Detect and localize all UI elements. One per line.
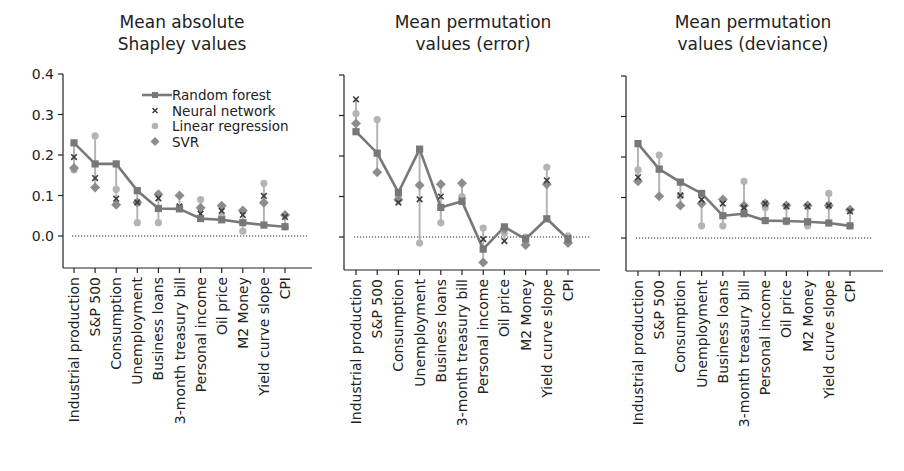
svr-marker xyxy=(845,205,855,215)
random-forest-marker xyxy=(176,205,183,212)
legend-label: Linear regression xyxy=(172,118,289,134)
x-tick-label: CPI xyxy=(277,277,293,299)
legend-label: SVR xyxy=(172,134,199,150)
random-forest-marker xyxy=(543,215,550,222)
x-tick-label: Yield curve slope xyxy=(821,280,837,400)
svr-marker xyxy=(654,191,664,201)
linear-regression-marker xyxy=(374,116,381,123)
random-forest-marker xyxy=(70,139,77,146)
x-tick-label: Oil price xyxy=(496,279,512,337)
legend: Random forestNeural networkLinear regres… xyxy=(142,87,289,150)
random-forest-marker xyxy=(501,223,508,230)
svr-marker xyxy=(351,119,361,129)
panel-title: Shapley values xyxy=(118,34,247,54)
legend-item: Random forest xyxy=(142,87,271,103)
random-forest-marker xyxy=(783,217,790,224)
y-tick-label: 0.3 xyxy=(32,107,54,123)
chart-panel-2: Mean permutationvalues (error)Industrial… xyxy=(339,12,600,426)
svr-marker xyxy=(259,198,269,208)
random-forest-marker xyxy=(416,146,423,153)
y-tick-label: 0.4 xyxy=(32,66,54,82)
svr-marker xyxy=(90,182,100,192)
svr-marker xyxy=(675,201,685,211)
x-tick-label: 3-month treasury bill xyxy=(736,280,752,427)
random-forest-marker xyxy=(437,204,444,211)
svr-marker xyxy=(478,258,488,268)
random-forest-marker xyxy=(634,140,641,147)
neural-network-legend-icon xyxy=(153,108,158,113)
chart-canvas: Mean absoluteShapley values0.00.10.20.30… xyxy=(0,0,904,471)
legend-item: Linear regression xyxy=(152,118,289,134)
random-forest-marker xyxy=(458,198,465,205)
random-forest-marker xyxy=(374,150,381,157)
figure: Mean absoluteShapley values0.00.10.20.30… xyxy=(0,0,904,471)
x-tick-label: M2 Money xyxy=(235,277,251,349)
x-tick-label: Oil price xyxy=(778,280,794,338)
legend-label: Random forest xyxy=(172,87,271,103)
x-tick-label: Business loans xyxy=(715,280,731,383)
legend-item: SVR xyxy=(151,134,200,150)
x-tick-label: Personal income xyxy=(193,277,209,392)
x-tick-label: S&P 500 xyxy=(369,279,385,338)
y-tick-label: 0.0 xyxy=(32,228,54,244)
x-tick-label: Business loans xyxy=(433,279,449,382)
x-tick-label: S&P 500 xyxy=(87,277,103,336)
x-tick-label: Personal income xyxy=(757,280,773,395)
random-forest-marker xyxy=(762,217,769,224)
x-tick-label: Consumption xyxy=(108,277,124,370)
x-tick-label: Unemployment xyxy=(694,280,710,388)
linear-regression-marker xyxy=(719,222,726,229)
random-forest-marker xyxy=(677,179,684,186)
x-tick-label: M2 Money xyxy=(800,280,816,352)
x-tick-label: Consumption xyxy=(390,279,406,372)
linear-regression-marker xyxy=(480,224,487,231)
linear-regression-marker xyxy=(92,132,99,139)
random-forest-marker xyxy=(260,221,267,228)
y-tick-label: 0.2 xyxy=(32,147,54,163)
svr-marker xyxy=(217,201,227,211)
random-forest-marker xyxy=(698,190,705,197)
random-forest-marker xyxy=(92,160,99,167)
random-forest-marker xyxy=(155,205,162,212)
linear-regression-legend-icon xyxy=(152,123,159,130)
random-forest-marker xyxy=(719,212,726,219)
x-tick-label: M2 Money xyxy=(518,279,534,351)
linear-regression-marker xyxy=(740,178,747,185)
x-tick-label: 3-month treasury bill xyxy=(172,277,188,424)
random-forest-marker xyxy=(197,215,204,222)
svr-legend-icon xyxy=(151,137,160,146)
random-forest-marker xyxy=(846,222,853,229)
x-tick-label: 3-month treasury bill xyxy=(454,279,470,426)
linear-regression-marker xyxy=(437,219,444,226)
random-forest-marker xyxy=(395,189,402,196)
x-tick-label: Yield curve slope xyxy=(539,279,555,399)
svr-marker xyxy=(196,203,206,213)
random-forest-marker xyxy=(352,128,359,135)
svr-marker xyxy=(415,180,425,190)
linear-regression-marker xyxy=(656,151,663,158)
linear-regression-marker xyxy=(825,190,832,197)
linear-regression-marker xyxy=(239,228,246,235)
svr-marker xyxy=(739,201,749,211)
linear-regression-marker xyxy=(260,180,267,187)
random-forest-marker xyxy=(281,223,288,230)
x-tick-label: Oil price xyxy=(214,277,230,335)
x-tick-label: Industrial production xyxy=(630,280,646,425)
random-forest-marker xyxy=(218,216,225,223)
x-tick-label: Yield curve slope xyxy=(256,277,272,397)
x-tick-label: Unemployment xyxy=(129,277,145,385)
svr-marker xyxy=(436,179,446,189)
linear-regression-marker xyxy=(634,166,641,173)
panel-title: values (deviance) xyxy=(678,34,829,54)
x-tick-label: Consumption xyxy=(672,280,688,373)
x-tick-label: Industrial production xyxy=(348,279,364,424)
panel-title: Mean absolute xyxy=(120,12,245,32)
linear-regression-marker xyxy=(352,110,359,117)
legend-label: Neural network xyxy=(172,103,276,119)
random-forest-marker xyxy=(740,210,747,217)
legend-item: Neural network xyxy=(153,103,276,119)
random-forest-marker xyxy=(825,219,832,226)
linear-regression-marker xyxy=(134,219,141,226)
random-forest-marker xyxy=(656,166,663,173)
linear-regression-marker xyxy=(197,196,204,203)
